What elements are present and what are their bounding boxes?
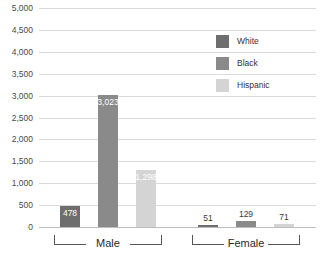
y-axis-tick-label: 3,500 — [0, 69, 33, 79]
y-axis-tick-label: 3,000 — [0, 91, 33, 101]
gridline — [39, 205, 316, 206]
legend-swatch — [216, 79, 229, 92]
bar-value-label: 478 — [63, 208, 77, 218]
gridline — [39, 8, 316, 9]
y-axis-tick-label: 0 — [0, 222, 33, 232]
legend-label: Hispanic — [237, 80, 270, 90]
gridline — [39, 139, 316, 140]
gridline — [39, 74, 316, 75]
gridline — [39, 183, 316, 184]
bar: 129 — [236, 221, 256, 227]
plot-area: 5,0004,5004,0003,5003,0002,5002,0001,500… — [39, 8, 316, 227]
x-axis-group-label: Male — [96, 237, 120, 249]
gridline — [39, 52, 316, 53]
gridline — [39, 118, 316, 119]
y-axis-tick-label: 4,000 — [0, 47, 33, 57]
bar-value-label: 51 — [203, 213, 212, 223]
y-axis-tick-label: 5,000 — [0, 3, 33, 13]
bracket-tick-right — [161, 235, 162, 244]
x-axis-group-label: Female — [228, 237, 265, 249]
gridline — [39, 96, 316, 97]
bar: 3,023 — [98, 95, 118, 227]
legend-label: Black — [237, 58, 258, 68]
bar: 1,298 — [136, 170, 156, 227]
bracket-rule-left — [54, 244, 86, 245]
legend-swatch — [216, 57, 229, 70]
bracket-tick-left — [54, 235, 55, 244]
gridline — [39, 30, 316, 31]
legend-label: White — [237, 36, 259, 46]
bar-value-label: 129 — [239, 209, 253, 219]
y-axis-tick-label: 2,000 — [0, 134, 33, 144]
bracket-rule-right — [268, 244, 300, 245]
group-bracket: Female — [192, 235, 300, 250]
y-axis-tick-label: 1,000 — [0, 178, 33, 188]
bar: 51 — [198, 225, 218, 227]
bracket-tick-right — [299, 235, 300, 244]
bar-value-label: 71 — [279, 212, 288, 222]
bar-value-label: 3,023 — [97, 97, 118, 107]
bracket-rule-right — [130, 244, 162, 245]
y-axis-tick-label: 500 — [0, 200, 33, 210]
bar: 71 — [274, 224, 294, 227]
bar-value-label: 1,298 — [135, 172, 156, 182]
y-axis-tick-label: 4,500 — [0, 25, 33, 35]
y-axis-tick-label: 2,500 — [0, 113, 33, 123]
legend-swatch — [216, 35, 229, 48]
bracket-tick-left — [192, 235, 193, 244]
gridline — [39, 161, 316, 162]
bar-chart: 5,0004,5004,0003,5003,0002,5002,0001,500… — [0, 0, 320, 257]
bar: 478 — [60, 206, 80, 227]
group-bracket: Male — [54, 235, 162, 250]
axis-baseline — [39, 227, 316, 228]
bracket-rule-left — [192, 244, 224, 245]
y-axis-tick-label: 1,500 — [0, 156, 33, 166]
